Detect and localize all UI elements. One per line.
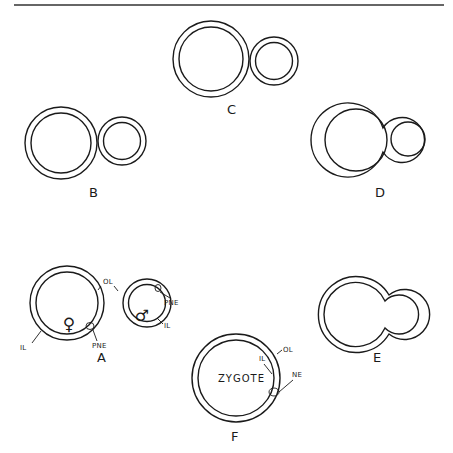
stage-label-d: D [375,185,385,200]
stage-label-c: C [227,102,236,117]
annotation-il-female: IL [20,344,27,352]
zygote-label: ZYGOTE [218,373,265,384]
annotation-ne-zygote: NE [292,371,302,379]
annotation-pne-male: PNE [164,299,179,307]
pronuclear-fusion-diagram: C B D E ♀ ♂ OL PNE IL [0,0,453,453]
annotation-il-zygote: IL [259,355,266,363]
stage-label-e: E [373,350,381,365]
stage-label-b: B [89,185,98,200]
female-symbol-icon: ♀ [63,314,75,334]
stage-b: B [25,107,146,200]
stage-a: ♀ ♂ OL PNE IL PNE IL A [20,266,179,365]
stage-label-a: A [97,350,106,365]
stage-c: C [173,21,298,117]
stage-e: E [318,276,429,365]
stage-f: ZYGOTE OL IL NE F [192,334,302,444]
stage-d: D [311,103,425,200]
annotation-pne-female: PNE [92,342,107,350]
annotation-ol: OL [103,278,113,286]
annotation-il-male: IL [164,322,171,330]
annotation-ol-zygote: OL [283,346,293,354]
male-symbol-icon: ♂ [135,306,149,325]
stage-label-f: F [231,429,238,444]
